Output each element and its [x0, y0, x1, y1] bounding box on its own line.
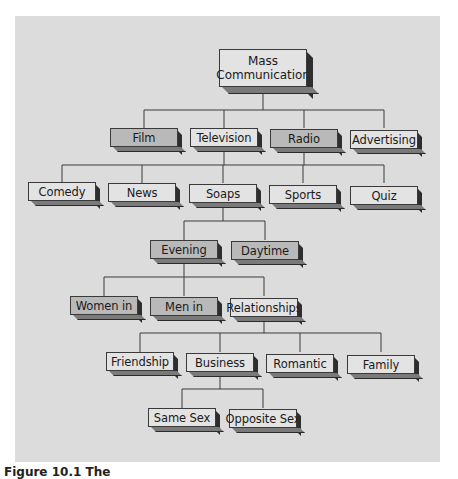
node-women-in: Women in — [70, 296, 138, 315]
node-daytime: Daytime — [231, 241, 299, 260]
node-soaps: Soaps — [189, 184, 257, 203]
node-evening: Evening — [150, 240, 218, 259]
node-friendship: Friendship — [106, 352, 174, 371]
node-mass-communication: Mass Communication — [219, 49, 307, 87]
figure-caption: Figure 10.1 The — [4, 465, 110, 479]
node-relationships: Relationships — [230, 298, 298, 317]
node-family: Family — [347, 355, 415, 374]
node-television: Television — [190, 128, 258, 147]
node-same-sex: Same Sex — [148, 408, 216, 427]
node-advertising: Advertising — [350, 130, 418, 149]
node-sports: Sports — [269, 185, 337, 204]
node-romantic: Romantic — [266, 354, 334, 373]
node-label-line1: Mass — [248, 54, 278, 68]
node-radio: Radio — [270, 129, 338, 148]
node-film: Film — [110, 128, 178, 147]
node-opposite-sex: Opposite Sex — [229, 409, 297, 428]
node-comedy: Comedy — [28, 182, 96, 201]
node-news: News — [108, 183, 176, 202]
node-business: Business — [186, 353, 254, 372]
node-men-in: Men in — [150, 297, 218, 316]
node-quiz: Quiz — [350, 186, 418, 205]
node-label-line2: Communication — [216, 68, 309, 82]
